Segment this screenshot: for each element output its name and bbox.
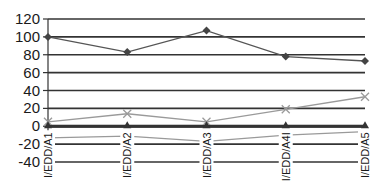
y-tick-label: 80 xyxy=(23,46,40,63)
y-tick-label: 0 xyxy=(32,117,40,134)
y-tick-label: 60 xyxy=(23,64,40,81)
y-tick-label: -20 xyxy=(18,135,40,152)
x-tick-label: I/EDD/A3 xyxy=(201,132,213,178)
y-tick-label: -40 xyxy=(18,153,40,170)
diamond-marker xyxy=(203,27,211,35)
x-tick-label: I/EDD/A4I xyxy=(280,132,292,181)
diamond-marker xyxy=(361,57,369,65)
y-tick-label: 20 xyxy=(23,99,40,116)
x-tick-label: I/EDD/A1 xyxy=(42,132,54,178)
line-chart: 120100806040200-20-40 I/EDD/A1I/EDD/A2I/… xyxy=(0,0,391,186)
diamond-marker xyxy=(44,33,52,41)
series-2 xyxy=(44,93,369,126)
x-tick-label: I/EDD/A2 xyxy=(121,132,133,178)
series-1 xyxy=(44,27,369,65)
x-axis: I/EDD/A1I/EDD/A2I/EDD/A3I/EDD/A4II/EDD/A… xyxy=(41,130,372,186)
y-tick-label: 100 xyxy=(15,28,40,45)
diamond-marker xyxy=(282,53,290,61)
y-tick-label: 40 xyxy=(23,82,40,99)
x-tick-label: I/EDD/A5 xyxy=(359,132,371,178)
y-tick-label: 120 xyxy=(15,10,40,27)
series-layer xyxy=(44,27,369,142)
